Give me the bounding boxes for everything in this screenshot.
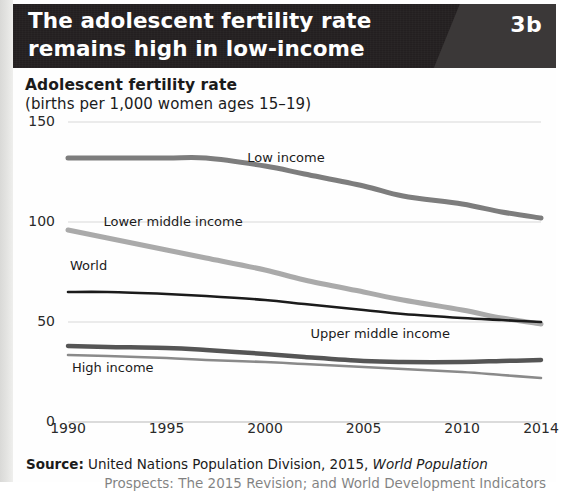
figure-number-badge: 3b: [510, 12, 542, 37]
series-label-lower-middle-income: Lower middle income: [103, 214, 242, 229]
x-tick-label-2000: 2000: [235, 420, 295, 436]
series-line-low-income: [68, 157, 541, 218]
x-tick-label-2010: 2010: [432, 420, 492, 436]
series-label-low-income: Low income: [247, 150, 324, 165]
page-edge-strip: [0, 0, 13, 482]
page-title: The adolescent fertility rate remains hi…: [28, 7, 448, 68]
series-lines: [68, 157, 541, 378]
source-text: United Nations Population Division, 2015…: [84, 456, 373, 472]
page-title-line1: The adolescent fertility rate: [28, 8, 371, 33]
x-tick-label-2014: 2014: [511, 420, 563, 436]
x-tick-label-1990: 1990: [38, 420, 98, 436]
gridlines: [68, 122, 541, 422]
series-label-high-income: High income: [72, 360, 154, 375]
chart-container: Adolescent fertility rate (births per 1,…: [13, 68, 556, 438]
y-tick-label-150: 150: [19, 113, 55, 129]
series-label-upper-middle-income: Upper middle income: [310, 326, 450, 341]
x-tick-label-2005: 2005: [334, 420, 394, 436]
series-line-world: [68, 292, 541, 322]
y-tick-label-50: 50: [19, 313, 55, 329]
source-note-line2: Prospects: The 2015 Revision; and World …: [26, 474, 546, 492]
line-chart-plot: [13, 68, 556, 438]
page-title-line2: remains high in low-income countries: [28, 35, 448, 68]
header-banner: The adolescent fertility rate remains hi…: [13, 4, 556, 68]
y-tick-label-100: 100: [19, 213, 55, 229]
x-tick-label-1995: 1995: [137, 420, 197, 436]
series-line-lower-middle-income: [68, 230, 541, 324]
source-label: Source:: [26, 456, 84, 472]
source-italic-title: World Population: [373, 456, 488, 472]
source-note: Source: United Nations Population Divisi…: [26, 455, 546, 473]
series-label-world: World: [70, 258, 107, 273]
